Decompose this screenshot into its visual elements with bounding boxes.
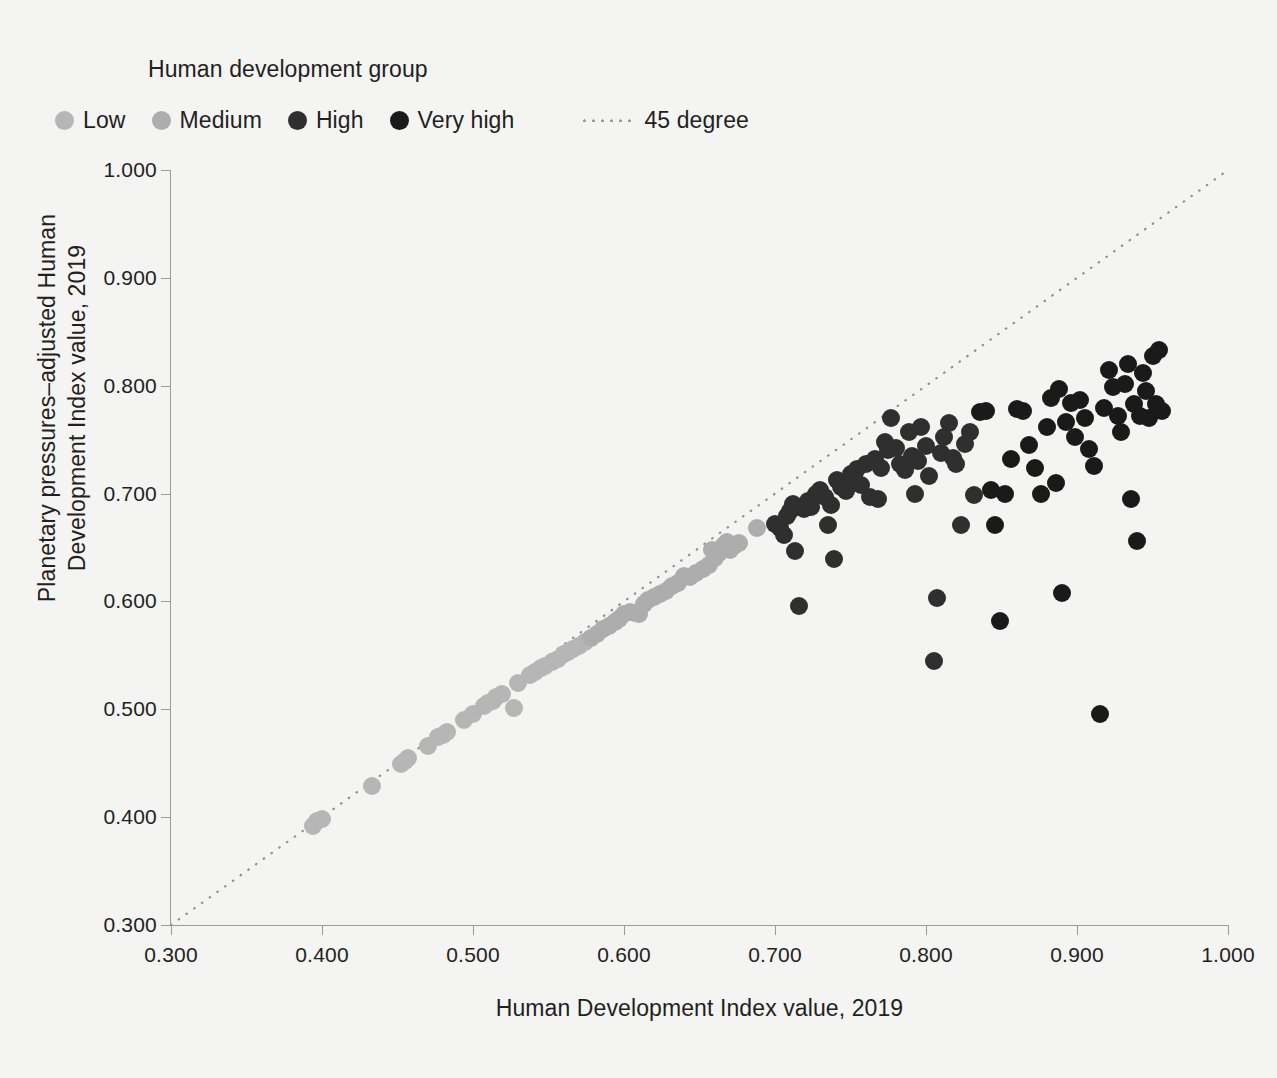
data-point[interactable] xyxy=(887,439,905,457)
data-point[interactable] xyxy=(399,749,417,767)
y-tick-label: 0.400 xyxy=(103,805,157,829)
data-point[interactable] xyxy=(947,455,965,473)
data-point[interactable] xyxy=(952,516,970,534)
data-point[interactable] xyxy=(748,519,766,537)
y-axis-title-line-2: Development Index value, 2019 xyxy=(62,28,92,788)
y-axis-title-line-1: Planetary pressures–adjusted Human xyxy=(32,28,62,788)
data-point[interactable] xyxy=(790,597,808,615)
data-point[interactable] xyxy=(730,534,748,552)
data-point[interactable] xyxy=(1047,474,1065,492)
data-point[interactable] xyxy=(1020,436,1038,454)
data-point[interactable] xyxy=(1128,532,1146,550)
legend-label-high: High xyxy=(316,107,364,134)
y-tick-mark xyxy=(161,494,170,495)
data-point[interactable] xyxy=(1150,341,1168,359)
x-axis-title: Human Development Index value, 2019 xyxy=(171,995,1228,1022)
chart-figure: Human development group Low Medium High … xyxy=(0,0,1277,1078)
data-point[interactable] xyxy=(1153,402,1171,420)
x-tick-label: 0.500 xyxy=(446,943,500,967)
data-point[interactable] xyxy=(822,496,840,514)
y-axis-title: Planetary pressures–adjusted Human Devel… xyxy=(32,28,92,788)
data-point[interactable] xyxy=(872,459,890,477)
data-point[interactable] xyxy=(965,486,983,504)
data-point[interactable] xyxy=(906,485,924,503)
x-tick-label: 0.700 xyxy=(748,943,802,967)
circle-marker-icon-medium xyxy=(152,111,171,130)
data-point[interactable] xyxy=(505,699,523,717)
data-point[interactable] xyxy=(928,589,946,607)
y-tick-mark xyxy=(161,170,170,171)
data-point[interactable] xyxy=(961,423,979,441)
data-point[interactable] xyxy=(920,467,938,485)
data-point[interactable] xyxy=(363,777,381,795)
y-tick-mark xyxy=(161,709,170,710)
data-point[interactable] xyxy=(1032,485,1050,503)
data-point[interactable] xyxy=(882,409,900,427)
data-point[interactable] xyxy=(1112,423,1130,441)
data-point[interactable] xyxy=(1014,402,1032,420)
dotted-line-icon xyxy=(580,118,632,122)
y-tick-label: 0.600 xyxy=(103,589,157,613)
x-tick-mark xyxy=(1228,925,1229,935)
y-tick-label: 0.700 xyxy=(103,482,157,506)
data-point[interactable] xyxy=(1134,364,1152,382)
circle-marker-icon-very-high xyxy=(390,111,409,130)
legend-item-medium[interactable]: Medium xyxy=(152,107,262,134)
data-point[interactable] xyxy=(869,490,887,508)
legend-item-very-high[interactable]: Very high xyxy=(390,107,515,134)
y-tick-mark xyxy=(161,386,170,387)
y-tick-mark xyxy=(161,601,170,602)
data-point[interactable] xyxy=(991,612,1009,630)
legend-label-low: Low xyxy=(83,107,126,134)
x-tick-mark xyxy=(926,925,927,935)
data-point[interactable] xyxy=(912,418,930,436)
data-point[interactable] xyxy=(986,516,1004,534)
legend-item-high[interactable]: High xyxy=(288,107,364,134)
data-point[interactable] xyxy=(775,526,793,544)
y-tick-label: 0.500 xyxy=(103,697,157,721)
x-axis-line xyxy=(170,925,1228,926)
x-tick-label: 0.300 xyxy=(144,943,198,967)
data-point[interactable] xyxy=(1100,361,1118,379)
x-tick-label: 0.600 xyxy=(597,943,651,967)
data-point[interactable] xyxy=(996,485,1014,503)
data-point[interactable] xyxy=(313,810,331,828)
data-point[interactable] xyxy=(1109,407,1127,425)
circle-marker-icon-high xyxy=(288,111,307,130)
reference-line-45-degree xyxy=(171,170,1228,925)
data-point[interactable] xyxy=(1116,375,1134,393)
y-tick-label: 0.800 xyxy=(103,374,157,398)
x-tick-mark xyxy=(473,925,474,935)
y-tick-mark xyxy=(161,925,170,926)
legend-label-45-degree: 45 degree xyxy=(644,107,749,134)
data-point[interactable] xyxy=(940,414,958,432)
data-point[interactable] xyxy=(1080,440,1098,458)
data-point[interactable] xyxy=(1053,584,1071,602)
plot-area: 0.3000.4000.5000.6000.7000.8000.9001.000… xyxy=(171,170,1228,925)
legend-label-medium: Medium xyxy=(180,107,262,134)
y-tick-label: 1.000 xyxy=(103,158,157,182)
y-tick-label: 0.900 xyxy=(103,266,157,290)
legend-item-45-degree[interactable]: 45 degree xyxy=(540,107,749,134)
data-point[interactable] xyxy=(438,723,456,741)
x-tick-label: 0.400 xyxy=(295,943,349,967)
data-point[interactable] xyxy=(1071,391,1089,409)
y-tick-mark xyxy=(161,278,170,279)
legend-item-low[interactable]: Low xyxy=(55,107,126,134)
data-point[interactable] xyxy=(825,550,843,568)
data-point[interactable] xyxy=(819,516,837,534)
y-tick-mark xyxy=(161,817,170,818)
data-point[interactable] xyxy=(1026,459,1044,477)
data-point[interactable] xyxy=(1038,418,1056,436)
data-point[interactable] xyxy=(1076,409,1094,427)
data-point[interactable] xyxy=(1091,705,1109,723)
data-point[interactable] xyxy=(925,652,943,670)
data-point[interactable] xyxy=(1002,450,1020,468)
x-tick-mark xyxy=(322,925,323,935)
y-tick-label: 0.300 xyxy=(103,913,157,937)
data-point[interactable] xyxy=(786,542,804,560)
data-point[interactable] xyxy=(977,402,995,420)
legend: Low Medium High Very high 45 degree xyxy=(55,104,775,136)
data-point[interactable] xyxy=(1122,490,1140,508)
data-point[interactable] xyxy=(1085,457,1103,475)
